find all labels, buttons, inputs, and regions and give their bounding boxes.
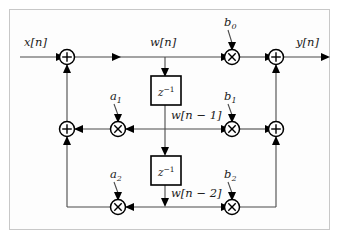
arrowhead-output [321,53,330,61]
middle-tap-path [74,125,274,133]
multiplier-b1 [225,122,240,137]
label-output-signal: y[n] [295,35,319,49]
arrowhead-into-bottom-row [161,198,169,207]
figure-root: z−1 z−1 [0,0,345,239]
wire-b1-feed [228,104,232,115]
wire-b2-feed [228,182,232,193]
delay-block-2: z−1 [151,156,181,185]
multiplier-b0 [225,50,240,65]
arrowhead-into-feedforward-adder-1-vertical [272,136,280,145]
label-coefficient-a1: a1 [110,89,122,105]
arrowhead-into-output-adder-vertical [272,64,280,73]
arrowhead-midline-top [112,53,121,61]
wire-b0-feed [228,30,232,43]
signal-flow-diagram: z−1 z−1 [0,0,345,239]
multiplier-a2 [111,200,126,215]
output-adder [269,50,284,65]
arrowhead-into-mul-a1 [125,125,134,133]
bottom-tap-path [125,203,230,211]
label-coefficient-b1: b1 [224,89,236,105]
label-coefficient-b2: b2 [224,167,236,183]
arrowhead-into-delay2 [161,147,169,156]
label-state-wn-2: w[n − 2] [171,186,222,200]
label-state-wn-1: w[n − 1] [171,108,222,122]
multiplier-a1 [111,122,126,137]
label-coefficient-a2: a2 [110,167,122,183]
label-input-signal: x[n] [24,35,47,49]
wire-a2-feed [114,182,118,193]
wire-a1-feed [114,104,118,115]
label-coefficient-b0: b0 [224,15,236,31]
multiplier-b2 [225,200,240,215]
arrowhead-into-input-adder-vertical [63,64,71,73]
delay-block-1: z−1 [151,76,181,105]
feedforward-adder-1 [269,122,284,137]
arrowhead-into-feedback-adder-1-vertical [63,136,71,145]
feedback-adder-1 [60,122,75,137]
arrowhead-into-mul-a2 [125,203,134,211]
arrowhead-into-feedback-adder-1 [74,125,83,133]
input-adder [60,50,75,65]
label-state-wn: w[n] [150,35,177,49]
